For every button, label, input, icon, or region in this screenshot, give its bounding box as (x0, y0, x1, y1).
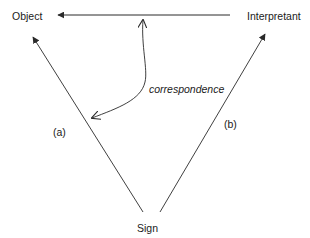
edge-a-label: (a) (53, 126, 66, 138)
object-label: Object (12, 10, 42, 22)
semiotic-triangle-diagram: Object Interpretant Sign correspondence … (0, 0, 310, 238)
correspondence-curve (92, 20, 146, 118)
diagram-edges (0, 0, 310, 238)
interpretant-label: Interpretant (247, 10, 301, 22)
sign-label: Sign (137, 222, 158, 234)
edge-b-label: (b) (224, 118, 237, 130)
sign-to-object-arrow (33, 37, 143, 212)
correspondence-label: correspondence (149, 83, 224, 95)
sign-to-interpretant-arrow (160, 34, 265, 212)
